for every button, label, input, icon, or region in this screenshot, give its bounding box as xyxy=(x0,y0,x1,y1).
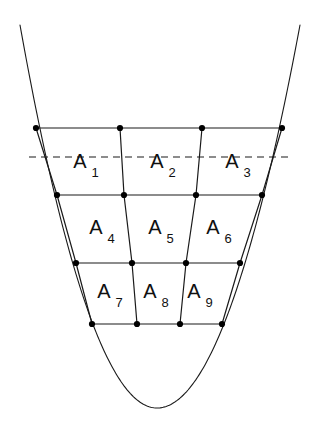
grid-node xyxy=(73,260,79,266)
grid-node xyxy=(177,321,183,327)
region-label-a5-subscript: 5 xyxy=(166,231,173,246)
grid-node xyxy=(183,260,189,266)
parabola-grid-diagram: A1A2A3A4A5A6A7A8A9 xyxy=(0,0,313,431)
grid-node xyxy=(219,321,225,327)
grid-node xyxy=(193,192,199,198)
grid-node xyxy=(121,192,127,198)
grid-node xyxy=(89,321,95,327)
grid-node xyxy=(129,260,135,266)
region-label-a6-base: A xyxy=(206,216,220,238)
region-label-a5-base: A xyxy=(148,216,162,238)
region-label-a2-subscript: 2 xyxy=(168,165,175,180)
figure-container: A1A2A3A4A5A6A7A8A9 xyxy=(0,0,313,431)
grid-node xyxy=(33,125,39,131)
grid-node xyxy=(237,260,243,266)
grid-node xyxy=(54,192,60,198)
grid-node xyxy=(134,321,140,327)
region-label-a9-subscript: 9 xyxy=(205,295,212,310)
region-label-a1-subscript: 1 xyxy=(91,165,98,180)
grid-node xyxy=(259,192,265,198)
region-label-a6-subscript: 6 xyxy=(224,231,231,246)
grid-node xyxy=(117,125,123,131)
region-label-a2-base: A xyxy=(150,150,164,172)
region-label-a3-base: A xyxy=(225,150,239,172)
region-label-a4-subscript: 4 xyxy=(107,231,114,246)
region-label-a3-subscript: 3 xyxy=(243,165,250,180)
region-label-a7-subscript: 7 xyxy=(115,295,122,310)
grid-node xyxy=(199,125,205,131)
region-label-a8-subscript: 8 xyxy=(161,295,168,310)
region-label-a9-base: A xyxy=(187,280,201,302)
grid-node xyxy=(279,125,285,131)
region-label-a1-base: A xyxy=(73,150,87,172)
region-label-a4-base: A xyxy=(89,216,103,238)
region-label-a8-base: A xyxy=(143,280,157,302)
region-label-a7-base: A xyxy=(97,280,111,302)
